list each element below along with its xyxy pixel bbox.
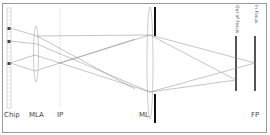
label-ml: ML xyxy=(139,111,149,119)
label-out-of-focus: Out of Focus xyxy=(235,5,240,33)
label-chip: Chip xyxy=(4,111,20,119)
mla-lens xyxy=(34,26,39,82)
label-mla: MLA xyxy=(29,111,44,119)
light-rays xyxy=(10,28,255,92)
label-fp: FP xyxy=(251,111,259,119)
chip-sensor xyxy=(7,8,11,108)
main-lens xyxy=(147,7,153,119)
label-in-focus: In Focus xyxy=(254,5,259,23)
label-ip: IP xyxy=(57,111,63,119)
